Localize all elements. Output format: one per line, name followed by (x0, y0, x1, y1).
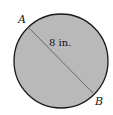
diameter-length-label: 8 in. (49, 37, 71, 48)
point-b-label: B (94, 95, 103, 108)
point-a-label: A (17, 13, 26, 26)
diagram-svg: A B 8 in. (0, 0, 113, 115)
circle-diagram: A B 8 in. (0, 0, 113, 115)
